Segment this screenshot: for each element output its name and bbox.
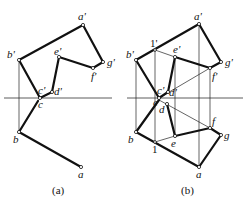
label-d-prime: d' <box>54 85 63 97</box>
label-a-b: a <box>196 168 202 180</box>
top-view-polyline-b <box>136 100 221 167</box>
label-d-prime-b: d' <box>169 86 178 98</box>
label-c: c <box>38 98 43 110</box>
label-c-prime-b: c' <box>157 84 165 96</box>
label-g-prime: g' <box>107 56 116 68</box>
aux-line-1prime-eprime <box>155 50 175 57</box>
label-e-prime: e' <box>54 45 62 57</box>
panel-a: a' b' e' f' g' c' d' c b a (a) <box>4 10 116 197</box>
label-1: 1 <box>152 143 158 155</box>
label-e-prime-b: e' <box>173 43 181 55</box>
label-1-prime: 1' <box>150 37 158 49</box>
label-c-prime: c' <box>38 84 46 96</box>
projection-diagram: a' b' e' f' g' c' d' c b a (a) <box>0 0 250 202</box>
top-view-polyline-a <box>19 101 81 167</box>
label-b-prime: b' <box>7 48 16 60</box>
label-f-prime: f' <box>91 70 97 82</box>
label-f-prime-b: f' <box>212 70 218 82</box>
caption-a: (a) <box>52 184 65 197</box>
panel-b: a' b' 1' e' g' f' c' d' c d b 1 e f g a … <box>126 10 243 197</box>
label-a: a <box>78 168 84 180</box>
label-a-prime-b: a' <box>194 10 203 22</box>
caption-b: (b) <box>181 184 194 197</box>
label-b: b <box>13 133 19 145</box>
label-b-prime-b: b' <box>126 48 135 60</box>
label-g-prime-b: g' <box>225 56 234 68</box>
label-c-b: c <box>153 96 158 108</box>
label-f-b: f <box>212 115 217 127</box>
label-b-b: b <box>128 133 134 145</box>
label-d-b: d <box>159 103 165 115</box>
label-e-b: e <box>171 137 176 149</box>
label-a-prime: a' <box>78 10 87 22</box>
label-g-b: g <box>224 129 230 141</box>
